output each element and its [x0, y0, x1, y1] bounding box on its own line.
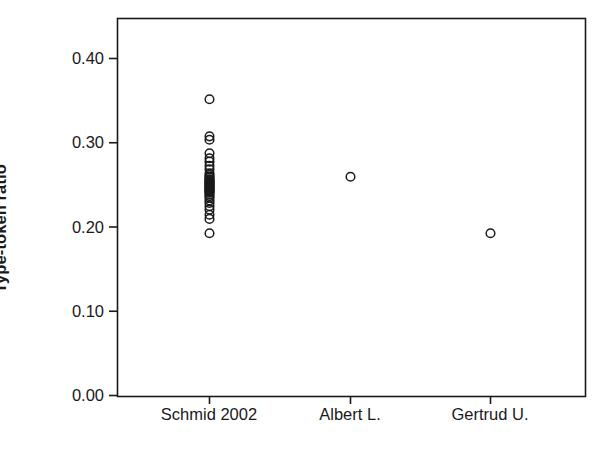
data-series-2 [486, 229, 495, 238]
data-point [205, 95, 214, 104]
data-series-0 [205, 95, 214, 238]
chart-figure: Type-token ratio 0.000.100.200.300.40 Sc… [0, 0, 615, 457]
plot-area [0, 0, 615, 457]
data-point [346, 172, 355, 181]
data-series-1 [346, 172, 355, 181]
plot-frame [118, 19, 586, 397]
data-point [486, 229, 495, 238]
data-point [205, 229, 214, 238]
